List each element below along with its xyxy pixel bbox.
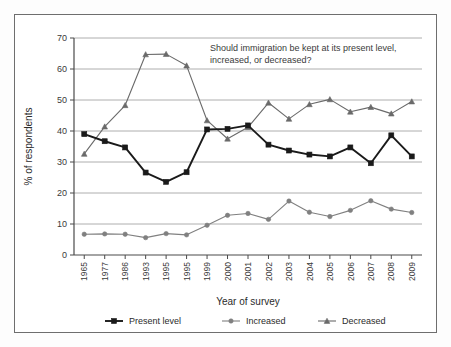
series-line (84, 125, 412, 181)
data-point (266, 217, 270, 221)
data-point (204, 118, 210, 123)
x-tick-label: 2008 (386, 262, 396, 281)
x-tick-label: 2005 (325, 262, 335, 281)
data-point (389, 207, 393, 211)
legend-item-decreased[interactable]: Decreased (318, 316, 386, 326)
annotation-line-2: increased, or decreased? (210, 55, 312, 65)
annotation-line-1: Should immigration be kept at its presen… (210, 43, 397, 53)
y-tick-label: 50 (57, 95, 67, 105)
x-axis-title: Year of survey (216, 296, 280, 307)
data-point (368, 161, 373, 166)
data-point (102, 139, 107, 144)
y-tick-label: 60 (57, 64, 67, 74)
data-point (266, 142, 271, 147)
data-point (410, 210, 414, 214)
data-point (82, 132, 87, 137)
data-point (143, 235, 147, 239)
data-point (327, 97, 333, 102)
x-tick-label: 2001 (243, 262, 253, 281)
data-point (246, 211, 250, 215)
immigration-opinion-line-chart: 0102030405060701965197719861993199519951… (0, 0, 451, 347)
data-point (266, 100, 272, 105)
data-point (143, 170, 148, 175)
data-point (205, 127, 210, 132)
series-decreased (81, 51, 414, 156)
legend-item-present-level[interactable]: Present level (105, 316, 181, 326)
data-point (286, 148, 291, 153)
x-tick-label: 1993 (141, 262, 151, 281)
legend-circle-marker (229, 319, 233, 323)
data-point (348, 208, 352, 212)
data-point (409, 99, 415, 104)
y-tick-label: 10 (57, 219, 67, 229)
series-line (84, 201, 412, 238)
legend-item-increased[interactable]: Increased (222, 316, 286, 326)
y-tick-label: 40 (57, 126, 67, 136)
x-tick-label: 1999 (202, 262, 212, 281)
chart-figure: 0102030405060701965197719861993199519951… (0, 0, 451, 347)
legend-label: Decreased (342, 316, 386, 326)
legend-label: Increased (246, 316, 286, 326)
data-point (184, 233, 188, 237)
legend-label: Present level (129, 316, 181, 326)
y-axis-title: % of respondents (23, 108, 34, 186)
data-point (287, 199, 291, 203)
y-tick-label: 30 (57, 157, 67, 167)
data-point (328, 214, 332, 218)
data-point (164, 179, 169, 184)
data-point (225, 126, 230, 131)
data-point (205, 223, 209, 227)
x-tick-label: 1977 (100, 262, 110, 281)
data-point (82, 232, 86, 236)
data-point (368, 104, 374, 109)
x-tick-label: 1965 (79, 262, 89, 281)
x-tick-label: 1986 (120, 262, 130, 281)
x-tick-label: 1995 (182, 262, 192, 281)
x-tick-label: 2004 (305, 262, 315, 281)
data-point (389, 133, 394, 138)
x-tick-label: 2000 (223, 262, 233, 281)
series-present-level (82, 123, 415, 184)
data-point (348, 145, 353, 150)
x-tick-label: 2009 (407, 262, 417, 281)
x-tick-label: 2003 (284, 262, 294, 281)
y-tick-label: 20 (57, 188, 67, 198)
x-tick-label: 1995 (161, 262, 171, 281)
data-point (103, 232, 107, 236)
y-tick-label: 0 (62, 250, 67, 260)
x-tick-label: 2002 (264, 262, 274, 281)
data-point (184, 63, 190, 68)
data-point (307, 152, 312, 157)
data-point (122, 102, 128, 107)
data-point (123, 145, 128, 150)
y-tick-label: 70 (57, 33, 67, 43)
data-point (246, 123, 251, 128)
data-point (307, 210, 311, 214)
data-point (409, 154, 414, 159)
data-point (164, 231, 168, 235)
data-point (123, 232, 127, 236)
data-point (327, 154, 332, 159)
data-point (184, 170, 189, 175)
legend-square-marker (112, 319, 117, 324)
series-increased (82, 199, 414, 240)
data-point (369, 199, 373, 203)
x-tick-label: 2006 (346, 262, 356, 281)
data-point (225, 213, 229, 217)
x-tick-label: 2007 (366, 262, 376, 281)
